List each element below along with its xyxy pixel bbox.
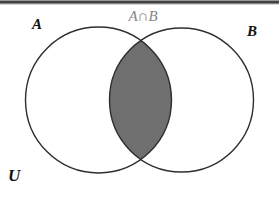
label-set-a: A — [32, 17, 42, 32]
label-set-b: B — [247, 24, 257, 39]
venn-diagram: A A∩B B U — [0, 0, 279, 198]
intersection-region — [110, 28, 254, 172]
label-universe: U — [8, 167, 20, 184]
label-intersection: A∩B — [121, 9, 165, 24]
